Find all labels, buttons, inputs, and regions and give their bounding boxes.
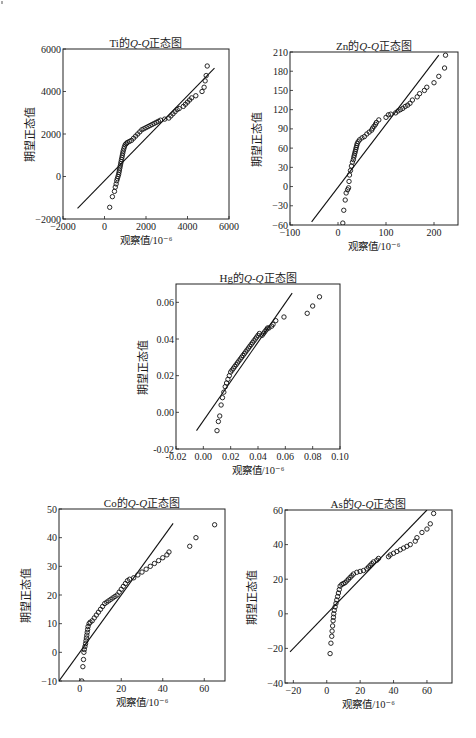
y-axis-label: 期望正态值 — [134, 327, 148, 407]
x-axis-label: 观察值/10⁻⁶ — [290, 238, 458, 253]
data-point — [274, 318, 278, 322]
data-point — [330, 629, 334, 633]
x-tick-label: 0.10 — [331, 451, 349, 462]
y-tick-label: -0.02 — [153, 444, 174, 455]
x-tick-label: 0.02 — [222, 451, 240, 462]
y-tick-label: 40 — [273, 539, 283, 550]
plot-area: -0.020.000.020.040.060.080.10-0.020.000.… — [126, 262, 350, 485]
data-point — [410, 98, 414, 102]
data-point — [202, 85, 206, 89]
y-tick-label: 2000 — [41, 129, 61, 140]
x-tick-label: 0.08 — [304, 451, 322, 462]
axes-frame — [290, 52, 458, 225]
y-tick-label: −10 — [41, 676, 57, 687]
y-tick-label: 0 — [278, 608, 283, 619]
data-point — [330, 634, 334, 638]
data-point — [205, 64, 209, 68]
y-axis-label: 期望正态值 — [21, 94, 35, 174]
data-point — [442, 66, 446, 70]
reference-line — [290, 510, 427, 652]
x-axis-label: 观察值/10⁻⁶ — [59, 694, 225, 709]
y-tick-label: 20 — [47, 590, 57, 601]
data-point — [425, 85, 429, 89]
x-tick-label: 0 — [102, 221, 107, 232]
y-tick-label: 40 — [47, 532, 57, 543]
x-tick-label: 0.06 — [277, 451, 295, 462]
y-tick-label: 0.00 — [157, 407, 175, 418]
y-axis-label: 期望正态值 — [17, 555, 31, 635]
y-tick-label: −40 — [267, 678, 283, 689]
data-point — [347, 179, 351, 183]
x-tick-label: 0.00 — [195, 451, 213, 462]
x-tick-label: 20 — [116, 683, 126, 694]
data-point — [330, 624, 334, 628]
data-point — [152, 561, 156, 565]
plot-area: −200204060−40−200204060 — [235, 488, 462, 719]
plot-area: 0204060−1001020304050 — [9, 487, 235, 717]
data-point — [81, 657, 85, 661]
chart-co: Co的Q-Q正态图0204060−1001020304050观察值/10⁻⁶期望… — [9, 487, 235, 717]
plot-area: −1000100200−60−300306090120150180210 — [240, 30, 468, 261]
data-point — [343, 198, 347, 202]
axes-frame — [285, 510, 452, 683]
data-point — [107, 205, 111, 209]
y-tick-label: −60 — [272, 220, 288, 231]
data-point — [420, 530, 424, 534]
data-point — [310, 304, 314, 308]
y-tick-label: 10 — [47, 618, 57, 629]
x-tick-label: 4000 — [178, 221, 198, 232]
y-tick-label: 60 — [273, 505, 283, 516]
data-point — [200, 89, 204, 93]
y-tick-label: 150 — [273, 85, 288, 96]
x-axis-label: 观察值/10⁻⁶ — [63, 232, 229, 247]
x-tick-label: 40 — [158, 683, 168, 694]
corner-mark — [1, 1, 3, 4]
y-tick-label: 60 — [278, 143, 288, 154]
data-point — [161, 556, 165, 560]
data-point — [112, 189, 116, 193]
reference-line — [78, 68, 215, 208]
data-point — [443, 53, 447, 57]
x-tick-label: 40 — [389, 685, 399, 696]
y-tick-label: 6000 — [41, 44, 61, 55]
data-point — [282, 315, 286, 319]
x-axis-label: 观察值/10⁻⁶ — [176, 462, 340, 477]
data-point — [437, 74, 441, 78]
y-axis-label: 期望正态值 — [248, 99, 262, 179]
y-tick-label: 0.02 — [157, 370, 175, 381]
data-point — [220, 395, 224, 399]
y-tick-label: 0 — [52, 647, 57, 658]
data-point — [328, 651, 332, 655]
data-point — [215, 428, 219, 432]
y-tick-label: 20 — [273, 574, 283, 585]
data-point — [140, 570, 144, 574]
y-tick-label: 180 — [273, 66, 288, 77]
data-point — [110, 194, 114, 198]
x-tick-label: 6000 — [219, 221, 239, 232]
data-point — [417, 91, 421, 95]
reference-line — [59, 523, 173, 681]
data-point — [212, 523, 216, 527]
y-tick-label: −2000 — [35, 214, 61, 225]
data-point — [144, 567, 148, 571]
data-point — [342, 208, 346, 212]
data-point — [148, 564, 152, 568]
data-point — [305, 311, 309, 315]
x-tick-label: 60 — [422, 685, 432, 696]
y-tick-label: −30 — [272, 200, 288, 211]
chart-as: As的Q-Q正态图−200204060−40−200204060观察值/10⁻⁶… — [235, 488, 462, 719]
data-point — [188, 544, 192, 548]
data-point — [329, 641, 333, 645]
x-tick-label: 0 — [336, 227, 341, 238]
x-tick-label: 0 — [77, 683, 82, 694]
y-tick-label: 4000 — [41, 86, 61, 97]
data-point — [432, 81, 436, 85]
y-tick-label: 120 — [273, 104, 288, 115]
y-tick-label: −20 — [267, 643, 283, 654]
x-axis-label: 观察值/10⁻⁶ — [285, 696, 452, 711]
data-point — [86, 624, 90, 628]
x-tick-label: 0.04 — [249, 451, 267, 462]
data-point — [156, 558, 160, 562]
y-tick-label: 90 — [278, 123, 288, 134]
plot-area: −20000200040006000−20000200040006000 — [13, 27, 239, 255]
